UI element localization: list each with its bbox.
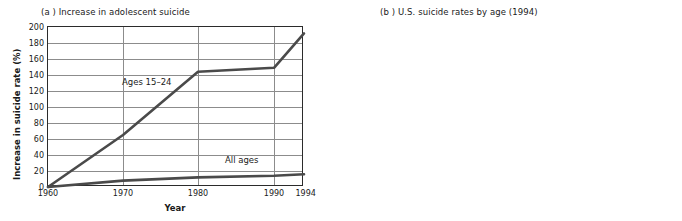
panel-a-xtick-1960: 1960 xyxy=(38,189,58,198)
figure-two-panel-suicide-statistics: (a ) Increase in adolescent suicide Incr… xyxy=(0,0,682,221)
panel-a-ytick-200: 200 xyxy=(29,23,44,32)
panel-a-xtick-1994: 1994 xyxy=(295,189,315,198)
panel-b-bar-chart: (b ) U.S. suicide rates by age (1994) Su… xyxy=(341,0,682,221)
panel-a-ytick-140: 140 xyxy=(29,71,44,80)
panel-a-xtick-1980: 1980 xyxy=(188,189,208,198)
panel-a-ytick-120: 120 xyxy=(29,87,44,96)
panel-a-plot-area: 0 20 40 60 80 100 120 140 160 180 200 19… xyxy=(47,26,303,186)
panel-a-ytick-60: 60 xyxy=(34,135,44,144)
panel-a-y-axis-title: Increase in suicide rate (%) xyxy=(12,49,22,180)
panel-a-x-axis-title: Year xyxy=(164,203,185,213)
series-label-all-ages: All ages xyxy=(225,155,259,165)
panel-a-xtick-1990: 1990 xyxy=(264,189,284,198)
panel-a-ytick-160: 160 xyxy=(29,55,44,64)
panel-a-title: (a ) Increase in adolescent suicide xyxy=(41,7,190,17)
panel-a-ytick-180: 180 xyxy=(29,39,44,48)
series-label-ages-15-24: Ages 15–24 xyxy=(122,77,171,87)
panel-a-ytick-40: 40 xyxy=(34,151,44,160)
panel-a-ytick-80: 80 xyxy=(34,119,44,128)
series-line-ages-15-24 xyxy=(48,33,304,187)
series-line-all-ages xyxy=(48,174,304,187)
panel-a-series-lines xyxy=(48,27,304,187)
panel-a-ytick-20: 20 xyxy=(34,167,44,176)
panel-a-xtick-1970: 1970 xyxy=(113,189,133,198)
panel-b-title: (b ) U.S. suicide rates by age (1994) xyxy=(380,7,538,17)
panel-a-line-chart: (a ) Increase in adolescent suicide Incr… xyxy=(0,0,341,221)
panel-a-ytick-100: 100 xyxy=(29,103,44,112)
